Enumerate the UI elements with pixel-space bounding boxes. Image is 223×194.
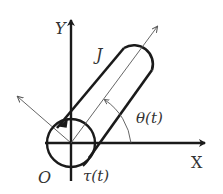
origin-label: O	[38, 168, 51, 187]
x-axis-label: X	[191, 153, 203, 172]
torque-label: τ(t)	[83, 167, 109, 185]
y-axis-label: Y	[55, 19, 67, 38]
torque-tail	[83, 156, 90, 166]
angle-label: θ(t)	[136, 109, 163, 127]
inertia-label: J	[93, 45, 104, 64]
rod-rotation-diagram: Y X O J θ(t) τ(t)	[0, 0, 223, 194]
